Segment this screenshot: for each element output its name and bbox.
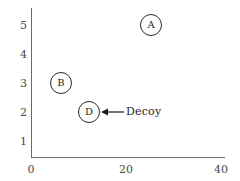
y-axis-tick-1: 1 — [13, 136, 27, 147]
data-point-d: D — [78, 101, 100, 123]
x-axis-tick-0: 0 — [19, 164, 43, 175]
y-axis-tick-3: 3 — [13, 78, 27, 89]
data-point-b-label: B — [57, 78, 64, 88]
data-point-d-label: D — [85, 107, 93, 117]
x-axis-line — [31, 157, 225, 158]
data-point-a-label: A — [147, 20, 154, 30]
x-axis-tick-20: 20 — [114, 164, 138, 175]
data-point-a: A — [140, 14, 162, 36]
decoy-arrow-icon — [100, 104, 126, 120]
y-axis-tick-5: 5 — [13, 20, 27, 31]
y-axis-line — [31, 8, 32, 158]
scatter-chart: 5 4 3 2 1 0 20 40 A B D Decoy — [0, 0, 240, 181]
x-axis-tick-40: 40 — [209, 164, 233, 175]
y-axis-tick-4: 4 — [13, 49, 27, 60]
data-point-b: B — [50, 72, 72, 94]
decoy-annotation-label: Decoy — [126, 105, 161, 118]
y-axis-tick-2: 2 — [13, 107, 27, 118]
